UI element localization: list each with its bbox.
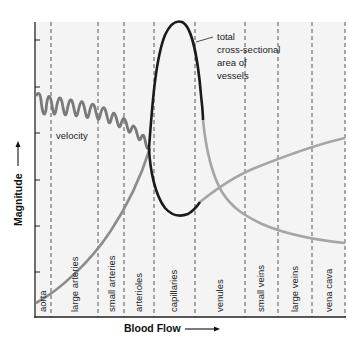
segment-label-large-veins: large veins bbox=[289, 266, 300, 312]
y-axis-title: Magnitude bbox=[12, 173, 24, 226]
segment-label-arterioles: arterioles bbox=[133, 273, 144, 312]
blood-flow-chart: velocity total cross-sectional area of v… bbox=[0, 0, 363, 347]
velocity-label: velocity bbox=[56, 130, 88, 141]
segment-label-small-veins: small veins bbox=[255, 265, 266, 312]
segment-label-venules: venules bbox=[214, 279, 225, 312]
segment-label-capillaries: capillaries bbox=[168, 270, 179, 312]
segment-label-aorta: aorta bbox=[37, 290, 48, 312]
segment-label-small-arteries: small arteries bbox=[106, 255, 117, 312]
segment-label-large-arteries: large arteries bbox=[69, 256, 80, 312]
y-axis-arrow-icon bbox=[16, 141, 21, 147]
segment-label-vena-cava: vena cava bbox=[323, 268, 334, 312]
x-axis-arrow-icon bbox=[214, 327, 220, 332]
x-axis-title: Blood Flow bbox=[124, 322, 181, 334]
